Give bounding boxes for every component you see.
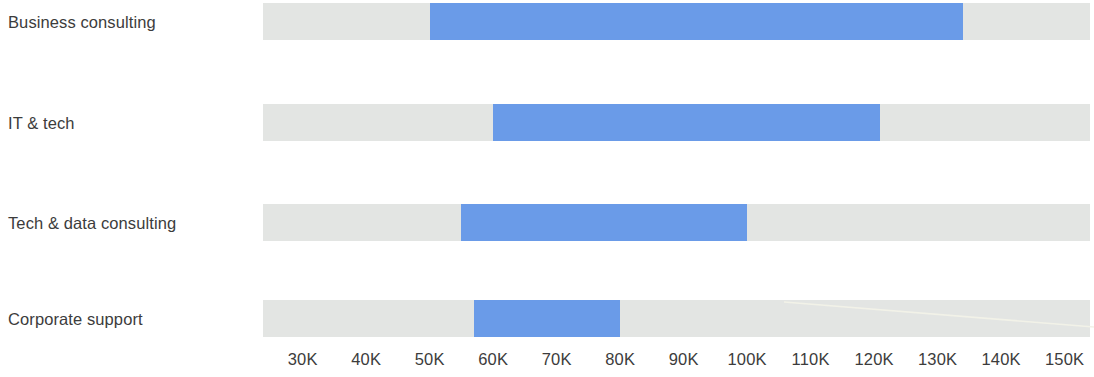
range-bar-segment[interactable] [493,104,880,141]
bar-track [263,3,1090,40]
x-axis-tick-label: 30K [288,348,318,370]
bar-track [263,300,1090,337]
x-axis-tick-label: 50K [415,348,445,370]
category-label: IT & tech [8,113,75,133]
bar-track [263,204,1090,241]
bar-track [263,104,1090,141]
x-axis-tick-label: 90K [669,348,699,370]
x-axis-tick-label: 120K [854,348,893,370]
x-axis-tick-label: 100K [727,348,766,370]
x-axis-tick-label: 80K [605,348,635,370]
x-axis-tick-label: 130K [918,348,957,370]
x-axis-tick-label: 150K [1045,348,1084,370]
category-label: Tech & data consulting [8,213,176,233]
range-bar-segment[interactable] [430,3,963,40]
x-axis-tick-label: 60K [478,348,508,370]
x-axis-tick-label: 40K [351,348,381,370]
range-bar-chart: Business consulting IT & tech Tech & dat… [0,0,1094,377]
range-bar-segment[interactable] [461,204,747,241]
category-label: Business consulting [8,12,156,32]
x-axis-tick-label: 70K [542,348,572,370]
x-axis-tick-label: 140K [981,348,1020,370]
range-bar-segment[interactable] [474,300,620,337]
x-axis: 30K40K50K60K70K80K90K100K110K120K130K140… [0,348,1094,377]
category-label: Corporate support [8,309,143,329]
x-axis-tick-label: 110K [792,348,830,370]
